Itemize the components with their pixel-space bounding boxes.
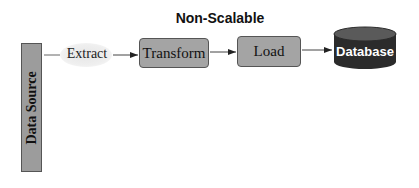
data-source-node: Data Source — [21, 43, 42, 172]
database-label: Database — [333, 44, 397, 59]
connector-arrows — [0, 0, 419, 188]
transform-node: Transform — [139, 38, 209, 68]
extract-label: Extract — [62, 46, 112, 62]
data-source-label: Data Source — [24, 71, 40, 144]
load-label: Load — [254, 43, 285, 60]
transform-label: Transform — [143, 45, 206, 62]
load-node: Load — [237, 36, 301, 67]
